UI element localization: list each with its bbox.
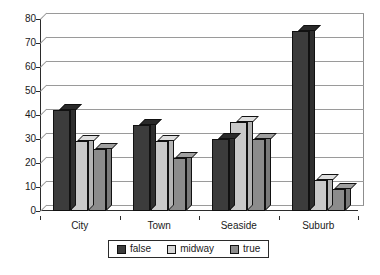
y-axis-tick-label: 80 bbox=[2, 14, 36, 24]
bar-front-face bbox=[212, 139, 229, 211]
bar-side-face bbox=[247, 116, 253, 211]
y-axis-tick-label: 70 bbox=[2, 38, 36, 48]
bar-front-face bbox=[133, 125, 150, 211]
x-axis-tick-label: Seaside bbox=[204, 220, 274, 232]
legend-swatch-icon bbox=[117, 245, 126, 254]
bar-side-face bbox=[229, 133, 235, 211]
x-axis: CityTownSeasideSuburb bbox=[40, 216, 358, 234]
bar-false-suburb bbox=[292, 31, 309, 211]
gridline bbox=[46, 37, 364, 38]
bar-front-face bbox=[53, 110, 70, 211]
bar-side-face bbox=[309, 25, 315, 211]
bar-chart: 80706050403020100 CityTownSeasideSuburb … bbox=[0, 0, 380, 275]
legend-label: true bbox=[243, 244, 260, 254]
bar-front-face bbox=[292, 31, 309, 211]
y-axis-tick-label: 30 bbox=[2, 134, 36, 144]
y-axis-tick-label: 60 bbox=[2, 62, 36, 72]
bar-side-face bbox=[150, 119, 156, 211]
bar-side-face bbox=[168, 135, 174, 211]
y-axis-tick-label: 40 bbox=[2, 110, 36, 120]
bar-side-face bbox=[106, 143, 112, 211]
x-axis-tick bbox=[358, 216, 359, 220]
legend-swatch-icon bbox=[230, 245, 239, 254]
x-axis-tick-label: City bbox=[45, 220, 115, 232]
y-axis-tick-label: 50 bbox=[2, 86, 36, 96]
legend-item-true[interactable]: true bbox=[230, 244, 260, 254]
bar-false-town bbox=[133, 125, 150, 211]
chart-legend: falsemidwaytrue bbox=[108, 240, 269, 258]
bar-side-face bbox=[265, 133, 271, 211]
legend-label: midway bbox=[180, 244, 214, 254]
y-axis-tick-label: 10 bbox=[2, 182, 36, 192]
x-axis-tick bbox=[120, 216, 121, 220]
x-axis-tick bbox=[40, 216, 41, 220]
x-axis-tick bbox=[199, 216, 200, 220]
legend-item-midway[interactable]: midway bbox=[167, 244, 214, 254]
bar-side-face bbox=[186, 152, 192, 211]
gridline bbox=[46, 61, 364, 62]
bar-false-city bbox=[53, 110, 70, 211]
gridline bbox=[46, 109, 364, 110]
x-axis-tick-label: Town bbox=[124, 220, 194, 232]
x-axis-tick bbox=[279, 216, 280, 220]
gridline bbox=[46, 85, 364, 86]
y-axis-tick-label: 20 bbox=[2, 158, 36, 168]
bar-side-face bbox=[70, 104, 76, 211]
bar-false-seaside bbox=[212, 139, 229, 211]
y-axis: 80706050403020100 bbox=[0, 0, 36, 275]
bar-side-face bbox=[88, 135, 94, 211]
plot-area bbox=[40, 19, 358, 211]
y-axis-tick-label: 0 bbox=[2, 206, 36, 216]
legend-label: false bbox=[130, 244, 151, 254]
gridline bbox=[46, 13, 364, 14]
legend-swatch-icon bbox=[167, 245, 176, 254]
x-axis-tick-label: Suburb bbox=[283, 220, 353, 232]
legend-item-false[interactable]: false bbox=[117, 244, 151, 254]
